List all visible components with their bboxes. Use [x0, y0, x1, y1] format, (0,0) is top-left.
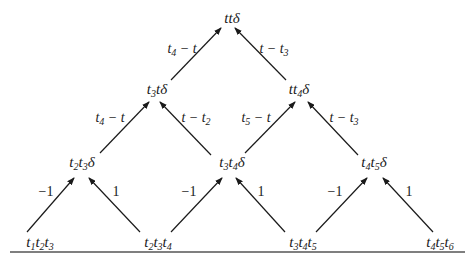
- node-t3t: t3tδ: [147, 82, 167, 99]
- edge-weight-label: t4 − t: [95, 111, 124, 127]
- edge-arrows: [27, 28, 433, 232]
- node-t2t3: t2t3δ: [69, 155, 94, 172]
- edge-weight-label: t4 − t: [167, 42, 196, 58]
- node-t1t2t3: t1t2t3: [26, 235, 54, 252]
- edge-weight-label: −1: [328, 185, 343, 199]
- edge-weight-label: t − t3: [259, 42, 288, 58]
- edge-weight-label: 1: [113, 185, 120, 199]
- edge-weight-label: −1: [39, 185, 54, 199]
- edge-weight-label: t − t2: [181, 111, 210, 127]
- edge-weight-label: 1: [258, 185, 265, 199]
- edge-weight-label: t5 − t: [241, 111, 270, 127]
- edge-arrow-n_t2t3t4-to-n_t3t4: [171, 178, 222, 232]
- edge-weight-label: 1: [406, 185, 413, 199]
- node-t4t5t6: t4t5t6: [426, 235, 454, 252]
- edge-weight-label: −1: [182, 185, 197, 199]
- node-t3t4: t3t4δ: [219, 155, 244, 172]
- node-t4t5: t4t5δ: [361, 155, 386, 172]
- node-t2t3t4: t2t3t4: [144, 235, 172, 252]
- recursion-diagram: [0, 0, 465, 257]
- edge-weight-label: t − t3: [329, 111, 358, 127]
- node-tt: ttδ: [224, 11, 239, 26]
- node-t3t4t5: t3t4t5: [289, 235, 317, 252]
- node-tt4: tt4δ: [289, 82, 309, 99]
